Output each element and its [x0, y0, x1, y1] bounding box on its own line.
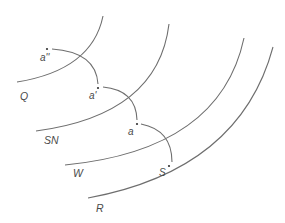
label-a2: a''	[40, 53, 49, 63]
label-w: W	[73, 168, 83, 179]
label-a0: a	[128, 127, 134, 137]
diagram-canvas: Q SN W R a'' a' a S	[0, 0, 285, 223]
point-a2	[46, 48, 48, 50]
label-s: S	[159, 168, 166, 178]
label-r: R	[96, 203, 104, 214]
arc-q	[17, 16, 103, 82]
point-a0	[136, 123, 138, 125]
arc-w	[65, 38, 244, 165]
arc-a2-to-a1	[52, 49, 98, 84]
label-a1: a'	[89, 91, 96, 101]
arc-r	[88, 47, 273, 198]
diagram-svg	[0, 0, 285, 223]
label-q: Q	[20, 91, 28, 102]
point-a1	[97, 87, 99, 89]
label-sn: SN	[44, 135, 59, 146]
arc-sn	[36, 24, 169, 131]
point-s	[168, 165, 170, 167]
